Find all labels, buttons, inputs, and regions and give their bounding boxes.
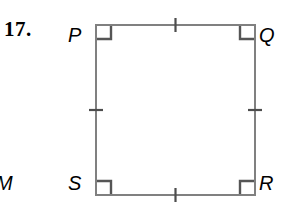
right-angle-mark-p — [97, 26, 111, 39]
right-angle-mark-q — [240, 26, 254, 39]
vertex-label-r: R — [259, 173, 273, 193]
vertex-label-s: S — [68, 173, 81, 193]
geometry-figure: 17. M P Q R S — [0, 0, 292, 214]
quadrilateral-pqrs-outline — [96, 25, 255, 195]
square-pqrs-drawing — [0, 0, 292, 214]
vertex-label-p: P — [68, 25, 81, 45]
right-angle-mark-r — [240, 181, 254, 194]
right-angle-mark-s — [97, 181, 111, 194]
vertex-label-q: Q — [259, 25, 275, 45]
